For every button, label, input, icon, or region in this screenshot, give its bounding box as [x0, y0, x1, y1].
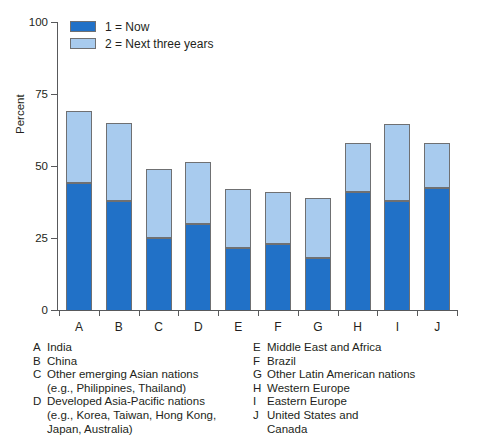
category-key-item-I: IEastern Europe — [253, 395, 415, 409]
bar-group-D — [185, 18, 211, 310]
bar-segment-now-D — [185, 224, 211, 310]
category-key-column-right: EMiddle East and AfricaFBrazilGOther Lat… — [253, 341, 415, 436]
category-key-letter: I — [253, 395, 267, 409]
x-tick-mark — [457, 311, 458, 316]
category-key-label: India — [47, 341, 72, 355]
category-key-column-left: AIndiaBChinaCOther emerging Asian nation… — [33, 341, 216, 436]
bar-segment-next-E — [225, 189, 251, 248]
bar-segment-next-H — [345, 143, 371, 192]
category-key-label-line: Eastern Europe — [267, 395, 347, 409]
x-tick-label-G: G — [313, 320, 322, 334]
category-key-letter: J — [253, 409, 267, 423]
chart-legend: 1 = Now2 = Next three years — [70, 19, 213, 53]
bar-segment-next-C — [146, 169, 172, 238]
bar-group-H — [345, 18, 371, 310]
x-tick-mark — [99, 311, 100, 316]
category-key-letter: H — [253, 382, 267, 396]
category-key-label: China — [47, 355, 77, 369]
x-tick-label-E: E — [234, 320, 242, 334]
category-key-item-F: FBrazil — [253, 355, 415, 369]
legend-swatch-now — [70, 21, 96, 32]
category-key-label-line: (e.g., Philippines, Thailand) — [47, 382, 199, 396]
bar-segment-next-B — [106, 123, 132, 201]
bar-segment-now-G — [305, 258, 331, 310]
y-tick-label: 25 — [35, 232, 48, 244]
legend-item-1: 1 = Now — [70, 19, 213, 34]
stacked-bar-chart-figure: Percent 0255075100 ABCDEFGHIJ 1 = Now2 =… — [0, 0, 478, 439]
category-key: AIndiaBChinaCOther emerging Asian nation… — [0, 341, 478, 439]
category-key-letter: E — [253, 341, 267, 355]
x-tick-label-J: J — [434, 320, 440, 334]
category-key-item-G: GOther Latin American nations — [253, 368, 415, 382]
x-tick-mark — [417, 311, 418, 316]
bar-segment-next-F — [265, 192, 291, 244]
bar-group-G — [305, 18, 331, 310]
y-tick-mark — [51, 94, 57, 95]
y-tick-label: 0 — [42, 304, 48, 316]
y-tick-mark — [51, 22, 57, 23]
category-key-item-J: JUnited States andCanada — [253, 409, 415, 436]
bar-segment-next-D — [185, 162, 211, 224]
category-key-label-line: Middle East and Africa — [267, 341, 381, 355]
y-tick-label: 75 — [35, 88, 48, 100]
bar-group-A — [66, 18, 92, 310]
legend-label: 1 = Now — [105, 20, 149, 34]
category-key-label-line: India — [47, 341, 72, 355]
category-key-label-line: Western Europe — [267, 382, 350, 396]
x-tick-mark — [218, 311, 219, 316]
category-key-item-B: BChina — [33, 355, 216, 369]
category-key-label: Other Latin American nations — [267, 368, 415, 382]
category-key-label: Western Europe — [267, 382, 350, 396]
bar-segment-now-F — [265, 244, 291, 310]
category-key-label-line: (e.g., Korea, Taiwan, Hong Kong, — [47, 409, 216, 423]
category-key-letter: C — [33, 368, 47, 382]
bar-segment-now-E — [225, 248, 251, 310]
bar-segment-next-A — [66, 111, 92, 183]
category-key-label-line: Japan, Australia) — [47, 423, 216, 437]
bar-segment-now-A — [66, 183, 92, 310]
plot-area: 0255075100 ABCDEFGHIJ — [57, 18, 458, 310]
category-key-item-H: HWestern Europe — [253, 382, 415, 396]
y-axis-line — [57, 22, 58, 311]
bar-segment-next-I — [384, 124, 410, 200]
x-tick-mark — [258, 311, 259, 316]
x-tick-label-C: C — [154, 320, 163, 334]
bar-group-C — [146, 18, 172, 310]
category-key-label-line: Brazil — [267, 355, 296, 369]
category-key-label: United States andCanada — [267, 409, 358, 436]
category-key-letter: A — [33, 341, 47, 355]
y-tick-label: 50 — [35, 160, 48, 172]
bar-group-J — [424, 18, 450, 310]
category-key-label: Middle East and Africa — [267, 341, 381, 355]
category-key-letter: B — [33, 355, 47, 369]
x-tick-label-A: A — [75, 320, 83, 334]
category-key-label: Brazil — [267, 355, 296, 369]
category-key-label-line: Other Latin American nations — [267, 368, 415, 382]
bar-segment-next-J — [424, 143, 450, 188]
x-tick-label-F: F — [274, 320, 281, 334]
x-tick-mark — [298, 311, 299, 316]
category-key-label: Eastern Europe — [267, 395, 347, 409]
y-tick-mark — [51, 238, 57, 239]
category-key-letter: G — [253, 368, 267, 382]
x-tick-mark — [338, 311, 339, 316]
bar-group-I — [384, 18, 410, 310]
x-tick-mark — [178, 311, 179, 316]
bar-segment-now-J — [424, 188, 450, 310]
x-tick-label-B: B — [115, 320, 123, 334]
legend-label: 2 = Next three years — [105, 37, 213, 51]
category-key-label-line: China — [47, 355, 77, 369]
bar-segment-now-C — [146, 238, 172, 310]
category-key-letter: F — [253, 355, 267, 369]
bar-segment-now-H — [345, 192, 371, 310]
category-key-label-line: Other emerging Asian nations — [47, 368, 199, 382]
x-tick-label-H: H — [353, 320, 362, 334]
category-key-label-line: Developed Asia-Pacific nations — [47, 395, 216, 409]
bar-segment-now-B — [106, 201, 132, 310]
x-tick-label-D: D — [194, 320, 203, 334]
category-key-label-line: United States and — [267, 409, 358, 423]
category-key-label-line: Canada — [267, 423, 358, 437]
category-key-item-C: COther emerging Asian nations(e.g., Phil… — [33, 368, 216, 395]
bar-group-F — [265, 18, 291, 310]
y-tick-mark — [51, 166, 57, 167]
